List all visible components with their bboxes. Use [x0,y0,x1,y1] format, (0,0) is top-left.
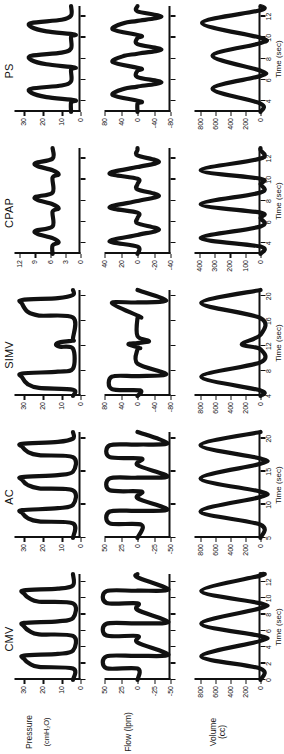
y-tick-label: 600 [212,686,219,698]
y-tick [154,680,155,685]
x-tick [80,200,85,201]
y-tick-label: -40 [167,260,174,270]
plot-area: 0102030 [14,290,80,396]
row-label-pressure-line1: Pressure [24,715,33,749]
plot-area: -50-2502550 [104,574,170,680]
plot-area: 02004006008004681012Time (sec) [194,6,260,112]
x-tick-label: 6 [264,78,271,82]
y-tick-label: 10 [58,686,65,694]
x-tick [80,320,85,321]
y-tick-label: 200 [242,402,249,414]
y-tick-label: 20 [39,118,46,126]
x-tick-label: 2 [264,662,271,666]
x-tick [80,679,85,680]
waveform-trace [14,290,80,396]
x-tick [170,597,175,598]
y-tick-label: 300 [210,260,217,272]
y-tick [154,254,155,259]
x-tick [170,15,175,16]
y-tick [121,538,122,543]
x-tick [80,503,85,504]
x-tick [80,58,85,59]
plot-area: 0102030 [14,432,80,538]
plot-area: 036912 [14,148,80,254]
x-tick [170,221,175,222]
x-tick-label: 4 [264,99,271,103]
x-tick [80,345,85,346]
y-tick-label: 400 [227,544,234,556]
y-tick [80,254,81,259]
y-tick [34,254,35,259]
y-tick [245,680,246,685]
x-tick-label: 12 [264,342,271,350]
y-tick-label: 20 [39,686,46,694]
panel-cmv-pressure: 0102030 [14,568,98,710]
waveform-trace [104,148,170,254]
y-tick [121,254,122,259]
x-tick [170,679,175,680]
y-tick-label: 25 [117,686,124,694]
y-tick-label: 0 [77,686,84,690]
x-tick [80,581,85,582]
y-tick-label: 800 [197,686,204,698]
panel-simv-pressure: 0102030 [14,284,98,426]
row-label-volume: Volume (cc) [186,710,248,754]
ventilator-waveform-figure: Pressure (cmH₂O) Flow (lpm) Volume (cc) … [0,0,281,754]
x-tick-label: 8 [264,57,271,61]
figure-rotation-wrapper: Pressure (cmH₂O) Flow (lpm) Volume (cc) … [0,0,281,754]
y-tick [199,254,200,259]
plot-area: -40-2002040 [104,148,170,254]
x-tick [80,36,85,37]
y-tick-label: 40 [117,118,124,126]
y-tick-label: 30 [20,686,27,694]
plot-area: 020040060080048121620Time (sec) [194,290,260,396]
y-tick-label: -50 [167,544,174,554]
y-tick-label: 0 [257,260,264,264]
x-tick [80,437,85,438]
y-tick-label: -20 [150,260,157,270]
y-tick-label: 10 [58,118,65,126]
x-tick [170,537,175,538]
panel-ps-pressure: 0102030 [14,0,98,142]
y-tick [23,112,24,117]
panel-ac-flow: -50-2502550 [104,426,188,568]
row-label-flow: Flow (lpm) [96,710,158,754]
column-title-cpap: CPAP [2,142,14,284]
waveform-trace [14,432,80,538]
panel-simv-flow: -80-4004080 [104,284,188,426]
y-tick-label: -40 [150,118,157,128]
y-tick [42,396,43,401]
x-tick [80,613,85,614]
y-tick [230,396,231,401]
x-tick-label: 5 [264,536,271,540]
column-title-cmv: CMV [2,568,14,710]
y-tick [65,254,66,259]
waveform-trace [194,574,260,680]
x-tick [170,200,175,201]
y-tick-label: 100 [241,260,248,272]
y-tick-label: 0 [77,118,84,122]
x-tick-label: 4 [264,241,271,245]
plot-area: -50-2502550 [104,432,170,538]
x-tick-label: 20 [264,292,271,300]
y-tick [230,680,231,685]
row-label-volume-line1: Volume (cc) [208,710,226,754]
x-tick [80,100,85,101]
plot-area: 0200400600800024681012Time (sec) [194,574,260,680]
plot-area: 02004006008005101520Time (sec) [194,432,260,538]
y-tick-label: 20 [117,260,124,268]
y-tick [42,112,43,117]
y-tick [154,112,155,117]
x-tick [80,537,85,538]
x-tick [170,345,175,346]
x-tick [170,100,175,101]
x-tick [170,613,175,614]
y-tick [121,112,122,117]
x-axis-title: Time (sec) [273,432,281,538]
x-tick-label: 8 [264,369,271,373]
y-tick [170,112,171,117]
x-tick-label: 12 [264,13,271,21]
x-tick [170,58,175,59]
plot-area: 0102030 [14,6,80,112]
y-tick-label: 200 [242,686,249,698]
